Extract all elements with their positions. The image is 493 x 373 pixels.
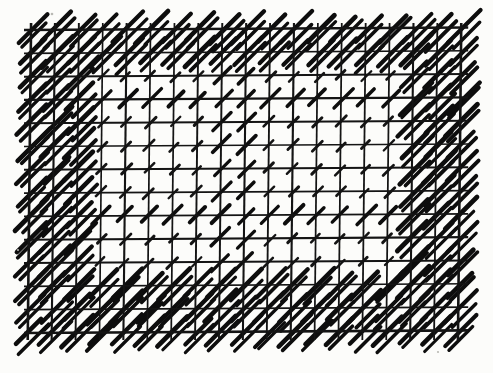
paper-speck bbox=[17, 249, 19, 251]
paper-speck bbox=[51, 13, 54, 16]
paper-speck bbox=[437, 351, 439, 353]
figure-container: Hatched grid pattern Printed grid of cro… bbox=[0, 0, 493, 373]
hatched-grid-figure: Hatched grid pattern Printed grid of cro… bbox=[0, 0, 493, 373]
